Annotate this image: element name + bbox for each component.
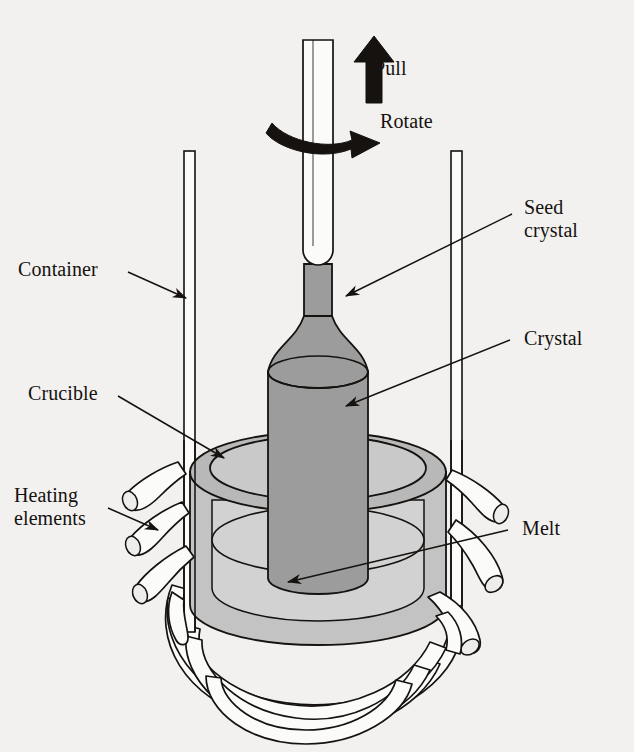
label-crucible: Crucible	[28, 382, 98, 405]
czochralski-diagram	[0, 0, 634, 752]
label-seed-crystal: Seed crystal	[524, 196, 578, 242]
figure-canvas: Pull Rotate Seed crystal Crystal Melt Co…	[0, 0, 634, 752]
crystal-body	[268, 372, 368, 594]
crystal-neck	[304, 264, 332, 316]
label-pull: Pull	[374, 57, 407, 80]
label-melt: Melt	[522, 517, 560, 540]
label-container: Container	[18, 258, 98, 281]
label-heating-elements: Heating elements	[14, 484, 86, 530]
label-rotate: Rotate	[380, 110, 433, 133]
label-crystal: Crystal	[524, 327, 582, 350]
